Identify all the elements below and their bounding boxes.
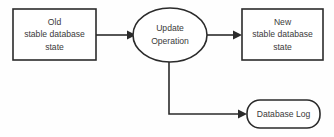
diagram-svg: Old stable database state Update Operati… xyxy=(0,0,334,137)
node-update-operation-line-2: Operation xyxy=(151,36,189,46)
node-update-operation-line-1: Update xyxy=(156,23,184,33)
diagram-canvas: Old stable database state Update Operati… xyxy=(0,0,334,137)
node-old-state-line-2: stable database xyxy=(24,29,85,39)
edge-old-to-update xyxy=(96,30,136,39)
edge-update-to-new-arrowhead xyxy=(233,30,242,39)
node-old-state-line-3: state xyxy=(45,42,64,52)
node-new-state-line-2: stable database xyxy=(252,29,313,39)
edge-update-to-log-line xyxy=(169,62,238,114)
node-new-state-line-3: state xyxy=(273,42,292,52)
edge-update-to-new xyxy=(207,30,242,39)
node-old-state[interactable]: Old stable database state xyxy=(13,9,96,60)
edge-update-to-log xyxy=(169,62,247,119)
node-new-state-line-1: New xyxy=(274,17,292,27)
node-old-state-line-1: Old xyxy=(48,17,62,27)
node-new-state[interactable]: New stable database state xyxy=(242,9,323,60)
node-database-log[interactable]: Database Log xyxy=(247,100,320,128)
edge-update-to-log-arrowhead xyxy=(238,109,247,118)
node-update-operation[interactable]: Update Operation xyxy=(133,8,207,62)
node-database-log-label: Database Log xyxy=(257,109,311,119)
